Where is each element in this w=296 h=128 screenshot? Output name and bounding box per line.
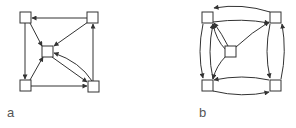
edge-b-br-tr (281, 24, 284, 79)
node-b-bottom-right (270, 80, 281, 91)
node-a-top-left (20, 12, 31, 23)
edge-b-bl-tl (210, 24, 213, 79)
edge-a-tr-c (54, 22, 88, 46)
node-b-top-right (270, 12, 281, 23)
node-b-center (225, 46, 236, 57)
edge-b-c-tl (213, 24, 226, 50)
node-b-top-left (202, 12, 213, 23)
node-a-bottom-right (88, 81, 99, 92)
node-a-center (42, 46, 53, 57)
node-a-top-right (87, 12, 98, 23)
panel-a-graph (20, 12, 99, 92)
panel-b-graph (200, 6, 284, 95)
edge-b-br-bl (214, 77, 269, 80)
node-a-bottom-left (20, 80, 31, 91)
panel-a-label: a (7, 106, 14, 119)
edge-b-tr-br (267, 24, 270, 78)
edge-a-tl-c (30, 23, 42, 46)
node-b-bottom-left (202, 80, 213, 91)
diagram-canvas (0, 0, 296, 128)
edge-b-bl-br (213, 91, 269, 95)
edge-b-c-tr (236, 22, 269, 47)
edge-a-br-c (54, 53, 92, 81)
edge-a-c-br (52, 57, 87, 82)
panel-b-label: b (199, 106, 206, 119)
edge-b-c-bl (213, 56, 226, 79)
edge-b-tl-bl (200, 24, 203, 78)
edge-b-tr-tl (214, 6, 270, 12)
edge-a-bl-c (30, 57, 43, 80)
edge-b-tl-tr (213, 20, 269, 23)
